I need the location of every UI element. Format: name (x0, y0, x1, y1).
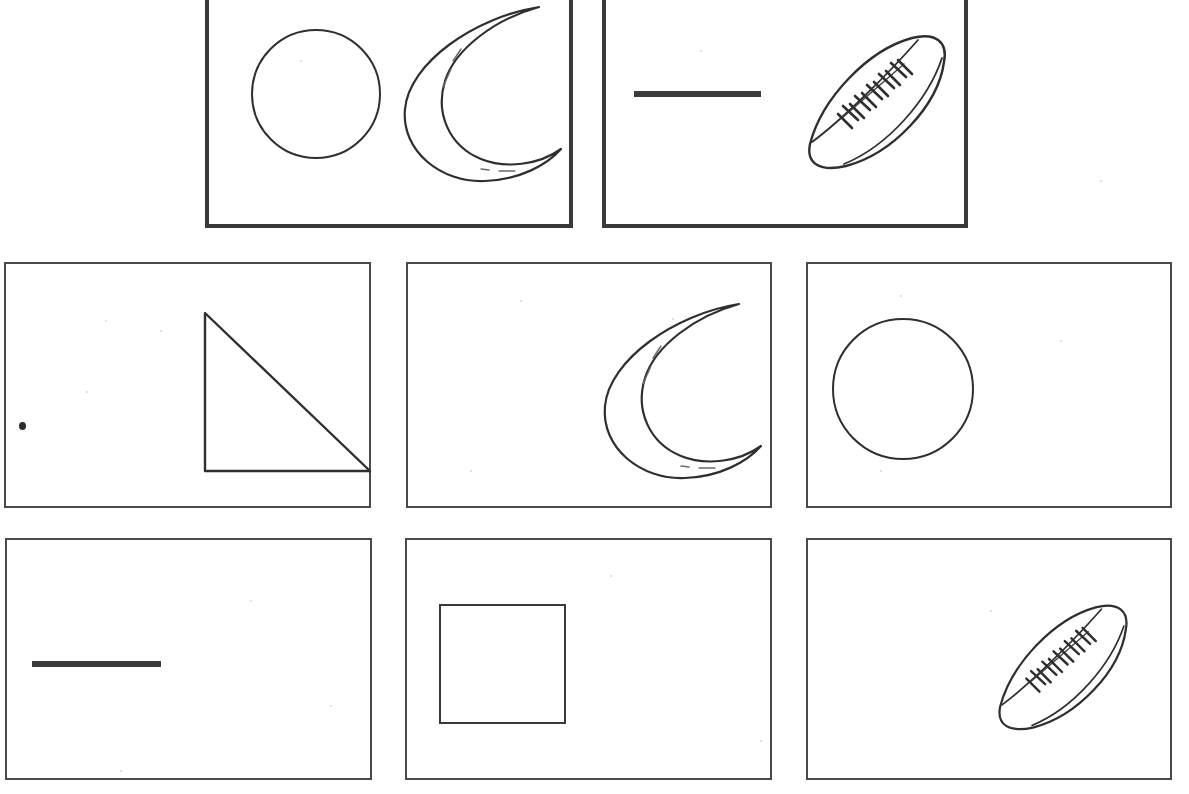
circle-shape (830, 316, 976, 462)
paper-fleck (1060, 340, 1062, 342)
paper-speck (19, 422, 26, 430)
panel-content (6, 264, 369, 506)
right-triangle-shape (202, 310, 373, 474)
panel-content (7, 540, 370, 778)
shape-panel[interactable] (5, 538, 372, 780)
paper-fleck (520, 300, 522, 302)
shape-panel[interactable] (205, 0, 573, 228)
panel-content (808, 540, 1170, 778)
paper-fleck (470, 470, 472, 472)
horizontal-line-shape (32, 661, 161, 667)
circle-shape (249, 27, 383, 161)
football-shape (987, 594, 1137, 735)
paper-fleck (610, 575, 612, 577)
shape-panel[interactable] (4, 262, 371, 508)
paper-fleck (330, 705, 332, 707)
paper-fleck (760, 740, 762, 742)
paper-fleck (1100, 180, 1102, 182)
crescent-moon-shape (389, 0, 564, 189)
panel-content (408, 264, 770, 506)
panel-content (606, 0, 964, 224)
paper-fleck (86, 391, 88, 393)
paper-fleck (900, 295, 902, 297)
shape-panel[interactable] (806, 538, 1172, 780)
shape-panel[interactable] (406, 262, 772, 508)
horizontal-line-shape (634, 91, 761, 97)
paper-fleck (300, 60, 302, 62)
worksheet-canvas (0, 0, 1189, 794)
shape-panel[interactable] (602, 0, 968, 228)
paper-fleck (672, 318, 674, 320)
paper-fleck (880, 470, 882, 472)
paper-fleck (105, 320, 107, 322)
paper-fleck (160, 330, 162, 332)
shape-panel[interactable] (405, 538, 772, 780)
square-shape (439, 604, 566, 724)
paper-fleck (700, 50, 702, 52)
panel-content (209, 0, 569, 224)
football-shape (796, 24, 956, 174)
shape-panel[interactable] (806, 262, 1172, 508)
paper-fleck (990, 610, 992, 612)
crescent-moon-shape (589, 296, 764, 486)
paper-fleck (120, 770, 122, 772)
paper-fleck (250, 600, 252, 602)
panel-content (808, 264, 1170, 506)
panel-content (407, 540, 770, 778)
